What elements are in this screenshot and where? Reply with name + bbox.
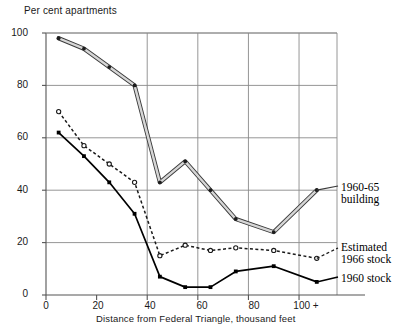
series-line-dashed — [59, 112, 317, 259]
data-point — [133, 212, 137, 216]
data-point — [107, 162, 111, 166]
chart-figure: Per cent apartments 100 80 60 40 20 0 0 … — [0, 0, 393, 332]
data-point — [132, 180, 136, 184]
y-tick-label-20: 20 — [2, 236, 28, 247]
series-leader-1 — [317, 186, 338, 190]
data-point — [183, 285, 187, 289]
series-2 — [57, 110, 319, 261]
x-tick-label-100: 100 + — [289, 300, 323, 311]
x-tick-label-20: 20 — [88, 300, 108, 311]
series-leader-3 — [317, 277, 338, 282]
data-point — [57, 36, 61, 40]
data-point — [158, 254, 162, 258]
data-point — [107, 65, 111, 69]
data-point — [82, 47, 86, 51]
data-point — [209, 285, 213, 289]
data-point — [183, 159, 187, 163]
data-point — [133, 84, 137, 88]
x-tick-label-60: 60 — [192, 300, 212, 311]
series-label-1960-65-building-line2: building — [341, 193, 379, 206]
y-axis-title: Per cent apartments — [24, 5, 117, 16]
x-tick-label-0: 0 — [36, 300, 56, 311]
data-point — [82, 144, 86, 148]
data-point — [183, 243, 187, 247]
series-line-solid — [59, 133, 317, 288]
series-label-estimated-1966-stock-line1: Estimated — [341, 241, 387, 254]
data-point — [158, 275, 162, 279]
y-tick-label-80: 80 — [2, 79, 28, 90]
data-point — [57, 110, 61, 114]
series-label-1960-stock: 1960 stock — [341, 272, 391, 285]
y-tick-label-60: 60 — [2, 131, 28, 142]
series-label-1960-65-building-line1: 1960-65 — [341, 181, 379, 194]
data-point — [272, 230, 276, 234]
x-axis-title: Distance from Federal Triangle, thousand… — [96, 313, 296, 324]
series-line-outer — [59, 38, 317, 232]
data-point — [234, 217, 238, 221]
x-tick-label-80: 80 — [244, 300, 264, 311]
plot-canvas — [0, 0, 393, 332]
series-line-inner — [59, 38, 317, 232]
x-tick-label-40: 40 — [140, 300, 160, 311]
series-leader-2 — [317, 248, 338, 258]
data-point — [57, 131, 61, 135]
data-point — [107, 180, 111, 184]
data-point — [234, 270, 238, 274]
series-label-estimated-1966-stock-line2: 1966 stock — [341, 253, 391, 266]
y-tick-label-0: 0 — [2, 288, 28, 299]
data-point — [272, 264, 276, 268]
data-point — [208, 248, 212, 252]
data-point — [158, 180, 162, 184]
data-point — [209, 188, 213, 192]
data-point — [82, 154, 86, 158]
y-tick-label-40: 40 — [2, 184, 28, 195]
data-point — [234, 246, 238, 250]
series-3 — [57, 131, 319, 289]
data-point — [272, 248, 276, 252]
series-1 — [57, 36, 319, 234]
y-tick-label-100: 100 — [2, 27, 28, 38]
